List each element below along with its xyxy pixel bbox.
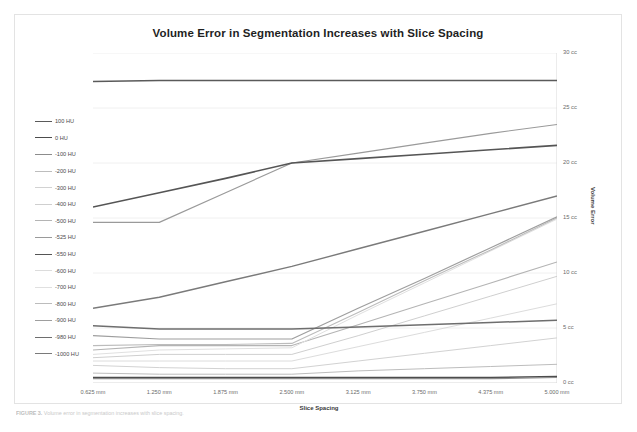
series-line [93,81,557,82]
series-line [93,338,557,369]
legend-swatch [35,320,52,321]
series-lines [93,81,557,379]
series-line [93,364,557,374]
series-line [93,376,557,377]
y-axis-tick-label: 5 cc [563,324,574,330]
legend-label: -980 HU [55,334,76,340]
legend-label: -400 HU [55,201,76,207]
legend-label: -700 HU [55,284,76,290]
gridlines [93,53,557,383]
y-axis-tick-label: 15 cc [563,214,577,220]
legend-label: 100 HU [55,118,74,124]
y-axis-tick-label: 0 cc [563,379,574,385]
y-axis-tick-label: 25 cc [563,104,577,110]
legend-label: -200 HU [55,168,76,174]
series-line [93,217,557,339]
legend-swatch [35,171,52,172]
legend-label: -300 HU [55,185,76,191]
legend-label: -1000 HU [55,351,79,357]
legend-label: -100 HU [55,151,76,157]
legend-swatch [35,254,52,255]
chart-title: Volume Error in Segmentation Increases w… [15,27,621,39]
series-line [93,125,557,223]
legend-swatch [35,287,52,288]
legend-swatch [35,137,52,138]
legend-swatch [35,270,52,271]
x-axis-tick-label: 5.000 mm [531,389,583,395]
legend-label: -900 HU [55,317,76,323]
legend-swatch [35,187,52,188]
line-chart-svg [93,53,557,383]
legend-swatch [35,154,52,155]
caption-prefix: FIGURE 3. [16,410,42,416]
series-line [93,219,557,354]
figure-caption: FIGURE 3. Volume error in segmentation i… [16,410,616,430]
chart-frame: Volume Error in Segmentation Increases w… [14,14,622,404]
legend-label: -500 HU [55,218,76,224]
x-axis-tick-label: 3.750 mm [398,389,450,395]
y-axis-title: Volume Error [590,187,596,225]
x-axis-tick-label: 2.500 mm [266,389,318,395]
x-axis-tick-label: 3.125 mm [332,389,384,395]
y-axis-tick-label: 30 cc [563,49,577,55]
legend-label: -550 HU [55,251,76,257]
legend-label: 0 HU [55,135,68,141]
series-line [93,262,557,350]
plot-area [93,53,557,383]
legend-swatch [35,204,52,205]
legend-swatch [35,337,52,338]
legend-label: -525 HU [55,234,76,240]
legend-swatch [35,237,52,238]
legend-swatch [35,121,52,122]
legend-swatch [35,220,52,221]
series-line [93,218,557,346]
legend-label: -800 HU [55,301,76,307]
series-line [93,145,557,207]
x-axis-tick-label: 0.625 mm [67,389,119,395]
legend-swatch [35,303,52,304]
x-axis-tick-label: 1.875 mm [200,389,252,395]
legend-label: -600 HU [55,268,76,274]
x-axis-tick-label: 4.375 mm [465,389,517,395]
legend-swatch [35,353,52,354]
y-axis-tick-label: 10 cc [563,269,577,275]
series-line [93,304,557,361]
x-axis-tick-label: 1.250 mm [133,389,185,395]
caption-text: Volume error in segmentation increases w… [44,410,184,416]
y-axis-tick-label: 20 cc [563,159,577,165]
figure-container: Volume Error in Segmentation Increases w… [0,0,637,432]
